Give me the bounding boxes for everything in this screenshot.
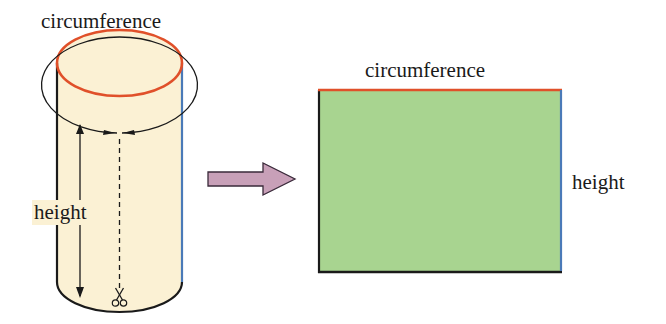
diagram-canvas bbox=[0, 0, 666, 324]
cylinder-height-label: height bbox=[32, 200, 89, 225]
unrolled-rectangle bbox=[318, 90, 562, 273]
rectangle-height-label: height bbox=[572, 170, 625, 195]
rectangle-circumference-label: circumference bbox=[365, 58, 485, 83]
rectangle-fill bbox=[318, 90, 561, 272]
cylinder bbox=[42, 30, 198, 312]
transform-arrow-icon bbox=[208, 163, 295, 195]
cylinder-circumference-label: circumference bbox=[41, 9, 161, 34]
